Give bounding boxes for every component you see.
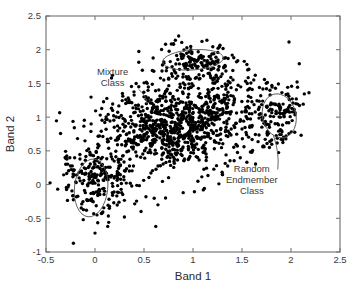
data-point [85,149,88,152]
data-point [299,133,302,136]
data-point [246,117,249,120]
data-point [259,94,262,97]
data-point [76,137,79,140]
data-point [82,208,85,211]
data-point [245,63,248,66]
data-point [242,119,245,122]
data-point [222,93,225,96]
plot-canvas: MixtureClassRandomEndmemberClass -0.500.… [0,0,356,292]
data-point [274,87,277,90]
data-point [172,166,175,169]
data-point [189,45,192,48]
data-point [260,125,263,128]
data-point [231,69,234,72]
data-point [183,106,186,109]
data-point [220,146,223,149]
data-point [281,141,284,144]
data-point [197,107,200,110]
data-point [121,92,124,95]
data-point [160,147,163,150]
data-point [155,135,158,138]
data-point [137,107,140,110]
data-point [106,225,109,228]
data-point [200,118,203,121]
data-point [145,138,148,141]
data-point [170,121,173,124]
data-point [221,142,224,145]
data-point [294,102,297,105]
data-point [92,200,95,203]
data-point [287,40,290,43]
data-point [197,73,200,76]
data-point [132,111,135,114]
data-point [261,99,264,102]
data-point [307,91,310,94]
data-point [98,167,101,170]
data-point [197,94,200,97]
data-point [202,151,205,154]
data-point [171,75,174,78]
data-point [64,163,67,166]
data-point [176,158,179,161]
data-point [210,52,213,55]
data-point [270,85,273,88]
data-point [279,112,282,115]
data-point [132,93,135,96]
data-point [94,109,97,112]
data-point [137,114,140,117]
data-point [298,62,301,65]
data-point [150,131,153,134]
data-point [153,196,156,199]
data-point [270,143,273,146]
data-point [167,76,170,79]
data-point [201,128,204,131]
data-point [227,98,230,101]
data-point [152,138,155,141]
data-point [176,74,179,77]
data-point [96,143,99,146]
data-point [226,83,229,86]
data-point [151,134,154,137]
data-point [145,80,148,83]
data-point [227,130,230,133]
data-point [220,85,223,88]
data-point [83,166,86,169]
data-point [277,102,280,105]
data-point [141,69,144,72]
data-point [265,87,268,90]
data-point [286,92,289,95]
data-point [285,121,288,124]
data-point [123,169,126,172]
data-point [258,86,261,89]
data-point [161,180,164,183]
data-point [225,107,228,110]
data-point [62,173,65,176]
data-point [182,191,185,194]
data-point [120,143,123,146]
data-point [143,127,146,130]
data-point [258,106,261,109]
data-point [241,137,244,140]
data-point [213,147,216,150]
y-tick-label: 0 [36,179,41,190]
data-point [159,132,162,135]
y-tick-label: 1 [36,112,41,123]
data-point [202,144,205,147]
data-point [105,97,108,100]
data-point [155,152,158,155]
data-point [109,152,112,155]
data-point [200,40,203,43]
data-point [161,142,164,145]
data-point [130,85,133,88]
data-point [167,50,170,53]
data-point [229,133,232,136]
data-point [172,42,175,45]
data-point [196,180,199,183]
data-point [282,115,285,118]
data-point [168,92,171,95]
data-point [169,60,172,63]
data-point [295,80,298,83]
data-point [141,152,144,155]
data-point [274,110,277,113]
data-point [125,132,128,135]
